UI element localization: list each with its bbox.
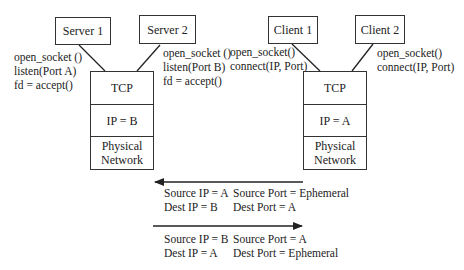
server-ip-layer: IP = B bbox=[90, 104, 154, 137]
call-line: listen(Port A) bbox=[14, 64, 82, 78]
dest-ip: Dest IP = A bbox=[164, 246, 229, 260]
client-2-calls: open_socket() connect(IP, Port) bbox=[377, 46, 454, 74]
packet-server-to-client-col1: Source IP = B Dest IP = A bbox=[164, 232, 229, 260]
tcp-label: TCP bbox=[324, 81, 346, 95]
client-1-label: Client 1 bbox=[274, 23, 312, 37]
client-2-label: Client 2 bbox=[361, 23, 399, 37]
server-1-label: Server 1 bbox=[63, 24, 103, 38]
client-1-calls: open_socket() connect(IP, Port) bbox=[230, 45, 307, 73]
server-2-calls: open_socket () listen(Port B) fd = accep… bbox=[163, 46, 231, 88]
server-2-box: Server 2 bbox=[139, 15, 196, 44]
network-label: Network bbox=[314, 153, 356, 167]
packet-server-to-client-col2: Source Port = A Dest Port = Ephemeral bbox=[233, 232, 338, 260]
call-line: connect(IP, Port) bbox=[377, 60, 454, 74]
call-line: open_socket () bbox=[14, 50, 82, 64]
server-physical-layer: Physical Network bbox=[90, 136, 154, 170]
source-port: Source Port = A bbox=[233, 232, 338, 246]
source-ip: Source IP = A bbox=[164, 186, 229, 200]
call-line: open_socket() bbox=[230, 45, 307, 59]
dest-ip: Dest IP = B bbox=[164, 200, 229, 214]
packet-client-to-server-col1: Source IP = A Dest IP = B bbox=[164, 186, 229, 214]
source-ip: Source IP = B bbox=[164, 232, 229, 246]
physical-label: Physical bbox=[102, 139, 143, 153]
server-2-label: Server 2 bbox=[147, 23, 187, 37]
call-line: open_socket () bbox=[163, 46, 231, 60]
ip-label: IP = A bbox=[320, 114, 351, 128]
packet-client-to-server-col2: Source Port = Ephemeral Dest Port = A bbox=[233, 186, 349, 214]
client-physical-layer: Physical Network bbox=[303, 136, 367, 170]
dest-port: Dest Port = Ephemeral bbox=[233, 246, 338, 260]
ip-label: IP = B bbox=[107, 114, 138, 128]
client-tcp-layer: TCP bbox=[303, 71, 367, 105]
physical-label: Physical bbox=[315, 139, 356, 153]
call-line: fd = accept() bbox=[163, 74, 231, 88]
tcp-label: TCP bbox=[111, 81, 133, 95]
client-1-box: Client 1 bbox=[268, 16, 318, 44]
server-1-calls: open_socket () listen(Port A) fd = accep… bbox=[14, 50, 82, 92]
server-tcp-layer: TCP bbox=[90, 71, 154, 105]
source-port: Source Port = Ephemeral bbox=[233, 186, 349, 200]
call-line: fd = accept() bbox=[14, 78, 82, 92]
call-line: connect(IP, Port) bbox=[230, 59, 307, 73]
client-2-box: Client 2 bbox=[355, 15, 405, 44]
dest-port: Dest Port = A bbox=[233, 200, 349, 214]
call-line: open_socket() bbox=[377, 46, 454, 60]
server-1-box: Server 1 bbox=[55, 17, 111, 45]
network-label: Network bbox=[101, 153, 143, 167]
client-ip-layer: IP = A bbox=[303, 104, 367, 137]
call-line: listen(Port B) bbox=[163, 60, 231, 74]
